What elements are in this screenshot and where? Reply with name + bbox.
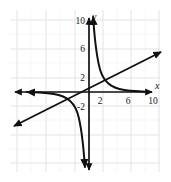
y-tick-10: 10	[76, 16, 86, 26]
y-tick-2: 2	[80, 73, 85, 83]
y-tick-6: 6	[80, 44, 85, 54]
graph-screenshot: x y 10 6 2 -2 2 6 10	[0, 0, 171, 182]
y-tick-minus-2: -2	[77, 102, 85, 112]
x-tick-2: 2	[98, 96, 103, 106]
y-axis-label: y	[91, 11, 97, 22]
x-tick-6: 6	[126, 96, 131, 106]
x-tick-10: 10	[148, 96, 158, 106]
coordinate-graph: x y 10 6 2 -2 2 6 10	[0, 0, 171, 182]
x-axis-label: x	[154, 80, 160, 91]
